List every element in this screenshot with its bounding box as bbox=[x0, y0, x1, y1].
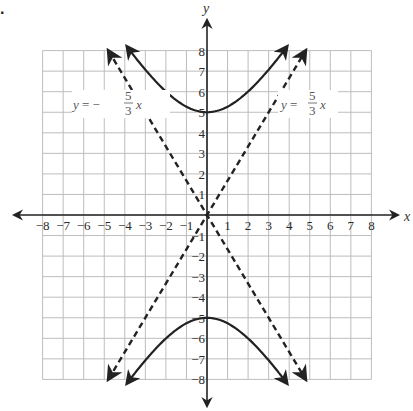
svg-text:2: 2 bbox=[199, 167, 206, 182]
svg-text:3: 3 bbox=[309, 103, 316, 118]
hyperbola-graph: −8−7−6−5−4−3−2−11234567887654321−1−2−3−4… bbox=[0, 0, 413, 411]
svg-text:4: 4 bbox=[199, 126, 206, 141]
svg-text:−5: −5 bbox=[97, 218, 111, 233]
left-asymptote-label: y = − 5 3 x bbox=[71, 88, 170, 118]
svg-text:3: 3 bbox=[125, 103, 132, 118]
y-axis-label: y bbox=[201, 1, 210, 16]
svg-text:1: 1 bbox=[224, 218, 231, 233]
svg-text:−8: −8 bbox=[36, 218, 50, 233]
svg-text:5: 5 bbox=[309, 88, 316, 103]
svg-text:−7: −7 bbox=[191, 352, 205, 367]
svg-text:−6: −6 bbox=[191, 331, 205, 346]
svg-text:5: 5 bbox=[125, 88, 132, 103]
svg-text:1: 1 bbox=[199, 187, 206, 202]
svg-text:7: 7 bbox=[199, 64, 206, 79]
svg-text:6: 6 bbox=[327, 218, 334, 233]
svg-text:−4: −4 bbox=[191, 290, 205, 305]
svg-text:−7: −7 bbox=[56, 218, 70, 233]
svg-text:y = −: y = − bbox=[71, 97, 100, 112]
svg-text:7: 7 bbox=[348, 218, 355, 233]
svg-text:2: 2 bbox=[245, 218, 252, 233]
svg-text:6: 6 bbox=[199, 85, 206, 100]
svg-text:−2: −2 bbox=[191, 249, 205, 264]
svg-text:4: 4 bbox=[286, 218, 293, 233]
svg-text:8: 8 bbox=[368, 218, 375, 233]
svg-text:8: 8 bbox=[199, 44, 206, 59]
x-axis-label: x bbox=[403, 209, 411, 224]
svg-text:y =: y = bbox=[279, 97, 297, 112]
svg-text:3: 3 bbox=[265, 218, 272, 233]
svg-text:−6: −6 bbox=[77, 218, 91, 233]
svg-text:3: 3 bbox=[199, 146, 206, 161]
svg-text:−8: −8 bbox=[191, 372, 205, 387]
svg-text:−3: −3 bbox=[191, 270, 205, 285]
svg-text:−4: −4 bbox=[118, 218, 132, 233]
svg-text:x: x bbox=[319, 97, 326, 112]
axes bbox=[14, 20, 398, 406]
svg-text:−3: −3 bbox=[138, 218, 152, 233]
svg-text:5: 5 bbox=[199, 105, 206, 120]
svg-text:−1: −1 bbox=[191, 229, 205, 244]
svg-text:5: 5 bbox=[307, 218, 314, 233]
svg-text:−5: −5 bbox=[191, 311, 205, 326]
svg-text:−2: −2 bbox=[159, 218, 173, 233]
svg-text:x: x bbox=[135, 97, 142, 112]
right-asymptote-label: y = 5 3 x bbox=[278, 88, 338, 118]
